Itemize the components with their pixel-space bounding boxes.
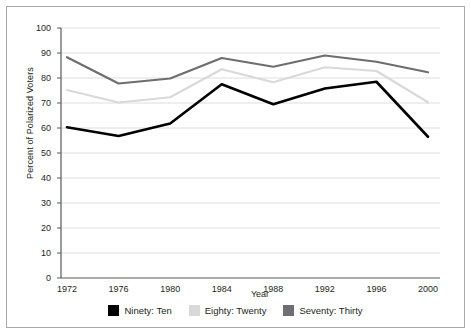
legend-item[interactable]: Eighty: Twenty <box>189 305 267 316</box>
series-line-seventy-thirty <box>67 56 428 84</box>
y-axis-title: Percent of Polarized Voters <box>25 33 35 213</box>
y-axis-tick-label: 100 <box>23 23 51 33</box>
chart-legend: Ninety: TenEighty: TwentySeventy: Thirty <box>0 305 471 316</box>
axis-lines-group <box>57 28 61 278</box>
legend-swatch-icon <box>283 305 294 316</box>
legend-swatch-icon <box>108 305 119 316</box>
legend-item[interactable]: Seventy: Thirty <box>283 305 362 316</box>
legend-label: Eighty: Twenty <box>205 305 267 316</box>
x-axis-title: Year <box>60 289 460 299</box>
gridlines-group <box>61 28 440 278</box>
legend-label: Ninety: Ten <box>124 305 171 316</box>
series-line-ninety-ten <box>67 82 428 137</box>
series-line-eighty-twenty <box>67 67 428 102</box>
y-axis-tick-label: 10 <box>23 248 51 258</box>
legend-item[interactable]: Ninety: Ten <box>108 305 171 316</box>
y-axis-tick-label: 20 <box>23 223 51 233</box>
series-lines-group <box>67 56 428 137</box>
legend-swatch-icon <box>189 305 200 316</box>
legend-label: Seventy: Thirty <box>299 305 362 316</box>
y-axis-tick-label: 0 <box>23 273 51 283</box>
chart-figure: 0102030405060708090100 19721976198019841… <box>0 0 471 334</box>
chart-plot-area: 0102030405060708090100 19721976198019841… <box>0 0 471 334</box>
